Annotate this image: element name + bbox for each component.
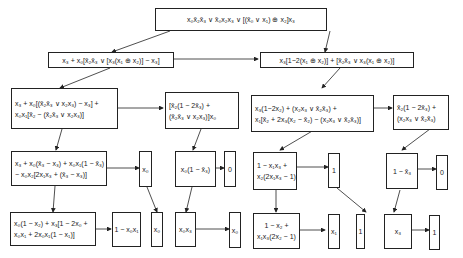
node-text: 1 <box>433 227 437 238</box>
node-l4-f: x₃ <box>384 214 412 249</box>
node-text: x₀ <box>232 225 238 236</box>
node-text: x₃[1−2(x₁ ⊕ x₂)] + [x̄₂x̄₃ ∨ x₃(x₁ ⊕ x₂)… <box>279 55 394 66</box>
node-text: 0 <box>228 164 232 175</box>
node-text: 1 − x₀x₁ <box>114 224 138 235</box>
node-l4-a: x₀(1 − x₂) + x₃[1 − 2x₀ + x₀x₁ + 2x₀x₁(1… <box>10 212 96 246</box>
node-l4-c: x₀x₃ <box>175 212 196 247</box>
node-text-line-1: [x̄₂(1 − 2x̄₃) + <box>169 100 235 111</box>
node-text-line-1: x₀(1 − x₂) + x₃[1 − 2x₀ + <box>14 218 92 229</box>
node-l3-c: 1 − x₁x₃ + x₂(2x₁x₃ − 1) <box>253 152 297 190</box>
node-text: x₀x̄₂x̄₃ ∨ x̄₀x₂x₃ ∨ [(x̄₀ ∨ x₁) ⊕ x₂]x₃ <box>187 14 295 25</box>
node-l2-d: x̄₂(1 − 2x̄₃) + (x₂x₃ ∨ x̄₂x̄₃) <box>393 95 449 130</box>
node-text: 0 <box>440 167 444 178</box>
node-text: 1 − x̄₃ <box>393 166 411 177</box>
node-text: x₃ <box>395 226 401 237</box>
node-text: 1 <box>332 165 336 176</box>
node-text-line-2: x₂(2x₁x₃ − 1) <box>257 171 293 182</box>
node-l4-e: 1 <box>356 214 365 249</box>
node-l4-c-side: x₀ <box>229 212 241 248</box>
node-l4-d-side: x₁ <box>328 214 340 249</box>
node-l3-c-side: 1 <box>328 153 340 188</box>
node-l2-b: [x̄₂(1 − 2x̄₃) + (x̄₂x̄₃ ∨ x₂x₃)]x₀ <box>165 92 239 129</box>
node-text-line-2: x₁[x̄₂ + 2x₃(x₂ − x̄₂) − (x₂x₃ ∨ x̄₂x̄₃)… <box>255 114 370 125</box>
node-l3-d: 1 − x̄₃ <box>386 153 418 189</box>
node-text-line-2: − x₀x₂[2x₁x₃ + (x̄₃ − x₃)] <box>15 169 103 180</box>
node-text: x₀ <box>142 164 148 175</box>
node-text: 1 <box>359 226 363 237</box>
node-l3-b-side: 0 <box>224 151 236 187</box>
node-text-line-1: x₃(1−2x₂) + (x₂x₃ ∨ x̄₂x̄₃) + <box>255 103 370 114</box>
node-text-line-2: (x̄₂x̄₃ ∨ x₂x₃)]x₀ <box>169 111 235 122</box>
node-root: x₀x̄₂x̄₃ ∨ x̄₀x₂x₃ ∨ [(x̄₀ ∨ x₁) ⊕ x₂]x₃ <box>155 8 327 31</box>
node-l3-d-side: 0 <box>436 155 448 190</box>
node-text-line-1: x̄₂(1 − 2x̄₃) + <box>397 102 445 113</box>
node-l1-left: x₃ + x₀[x̄₂x̄₃ ∨ [x₃(x₁ ⊕ x₂)] − x₃] <box>48 52 174 68</box>
node-l4-f-side: 1 <box>429 215 440 250</box>
node-text-line-1: 1 − x₂ + <box>257 220 296 231</box>
node-l4-a-side: 1 − x₀x₁ <box>112 212 141 247</box>
node-text-line-2: x₀x₁ + 2x₀x₁(1 − x₁)] <box>14 229 92 240</box>
node-text-line-2: x₁x₃(2x₂ − 1) <box>257 231 296 242</box>
node-text-line-1: x₃ + x₀(x̄₃ − x₃) + x₀x₁(1 − x̄₃) <box>15 158 103 169</box>
node-l3-b: x₀(1 − x̄₃) <box>175 151 216 187</box>
node-text-line-2: (x₂x₃ ∨ x̄₂x̄₃) <box>397 113 445 124</box>
node-text-line-1: 1 − x₁x₃ + <box>257 160 293 171</box>
node-text: x₃ + x₀[x̄₂x̄₃ ∨ [x₃(x₁ ⊕ x₂)] − x₃] <box>62 55 159 66</box>
node-text: x₁ <box>331 226 337 237</box>
node-text: x₀(1 − x̄₃) <box>181 164 210 175</box>
node-l3-a: x₃ + x₀(x̄₃ − x₃) + x₀x₁(1 − x̄₃) − x₀x₂… <box>11 151 107 186</box>
node-l4-b: x₀ <box>151 212 163 247</box>
node-text: x₀x₃ <box>179 224 192 235</box>
node-text: x₀ <box>154 224 160 235</box>
node-l1-right: x₃[1−2(x₁ ⊕ x₂)] + [x̄₂x̄₃ ∨ x₃(x₁ ⊕ x₂)… <box>260 52 414 68</box>
node-l4-d: 1 − x₂ + x₁x₃(2x₂ − 1) <box>253 213 300 249</box>
node-l3-a-side: x₀ <box>139 151 152 187</box>
node-l2-c: x₃(1−2x₂) + (x₂x₃ ∨ x̄₂x̄₃) + x₁[x̄₂ + 2… <box>251 95 374 132</box>
node-l2-a: x₃ + x₀[(x̄₂x̄₃ ∨ x₂x₃) − x₃] + x₀x₁[x̄₂… <box>11 88 118 129</box>
node-text-line-1: x₃ + x₀[(x̄₂x̄₃ ∨ x₂x₃) − x₃] + <box>15 98 114 109</box>
node-text-line-2: x₀x₁[x̄₂ − (x̄₂x̄₃ ∨ x₂x₃)] <box>15 109 114 120</box>
